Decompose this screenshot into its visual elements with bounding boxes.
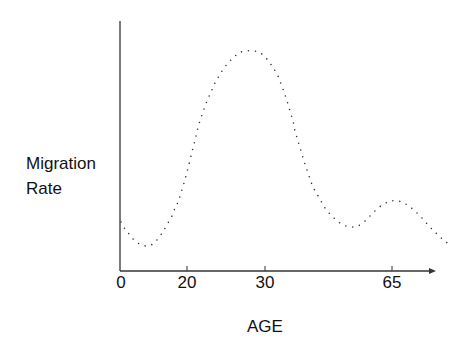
y-axis-label-line1: Migration — [26, 154, 96, 174]
chart-canvas — [0, 0, 471, 348]
x-tick-label: 20 — [178, 273, 197, 293]
migration-rate-curve — [121, 51, 451, 246]
x-axis-label: AGE — [247, 317, 283, 337]
x-ticks — [187, 266, 392, 271]
x-axis-arrow-icon — [429, 268, 436, 274]
x-tick-label: 65 — [383, 273, 402, 293]
x-tick-label: 0 — [116, 273, 125, 293]
y-axis-label-line2: Rate — [26, 179, 62, 199]
x-tick-label: 30 — [256, 273, 275, 293]
